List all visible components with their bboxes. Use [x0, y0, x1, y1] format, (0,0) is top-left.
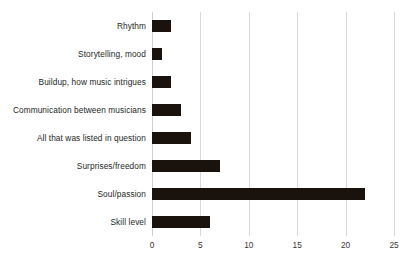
- bar: [152, 76, 171, 88]
- bar: [152, 188, 365, 200]
- bar-row: Rhythm: [152, 20, 394, 32]
- bar: [152, 132, 191, 144]
- bar: [152, 48, 162, 60]
- gridline-25: [394, 12, 395, 236]
- bar: [152, 160, 220, 172]
- x-tick-label: 25: [389, 240, 398, 250]
- plot-area: RhythmStorytelling, moodBuildup, how mus…: [152, 12, 394, 236]
- bar-row: Storytelling, mood: [152, 48, 394, 60]
- x-tick-label: 20: [341, 240, 350, 250]
- bar-row: All that was listed in question: [152, 132, 394, 144]
- x-axis-tick-labels: 0510152025: [152, 240, 394, 258]
- bar: [152, 104, 181, 116]
- bar-chart: RhythmStorytelling, moodBuildup, how mus…: [0, 0, 403, 274]
- category-label: Surprises/freedom: [77, 161, 146, 171]
- category-label: Buildup, how music intrigues: [39, 77, 146, 87]
- bar-series: RhythmStorytelling, moodBuildup, how mus…: [152, 12, 394, 236]
- bar: [152, 216, 210, 228]
- x-tick-label: 10: [244, 240, 253, 250]
- category-label: Storytelling, mood: [78, 49, 146, 59]
- category-label: Soul/passion: [97, 189, 146, 199]
- bar-row: Buildup, how music intrigues: [152, 76, 394, 88]
- category-label: Communication between musicians: [13, 105, 146, 115]
- category-label: All that was listed in question: [37, 133, 146, 143]
- category-label: Skill level: [111, 217, 147, 227]
- category-label: Rhythm: [117, 21, 146, 31]
- x-tick-label: 5: [198, 240, 203, 250]
- bar-row: Surprises/freedom: [152, 160, 394, 172]
- x-tick-label: 15: [293, 240, 302, 250]
- bar-row: Soul/passion: [152, 188, 394, 200]
- bar: [152, 20, 171, 32]
- bar-row: Communication between musicians: [152, 104, 394, 116]
- x-tick-label: 0: [150, 240, 155, 250]
- bar-row: Skill level: [152, 216, 394, 228]
